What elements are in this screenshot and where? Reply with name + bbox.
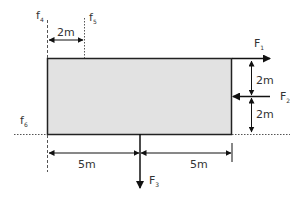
dimension-bottom-right-label: 5m — [190, 158, 208, 171]
line-f6-label: f6 — [20, 114, 28, 128]
dimension-right-lower-label: 2m — [256, 108, 274, 121]
line-f5-label: f5 — [89, 11, 97, 25]
line-f4-label: f4 — [36, 9, 44, 23]
force-diagram: 2m F1 2m 2m F2 5m 5m F3 f4 f5 f6 — [0, 0, 307, 204]
dimension-bottom-left-label: 5m — [78, 158, 96, 171]
dimension-top-label: 2m — [57, 26, 75, 39]
force-f2-label: F2 — [280, 90, 290, 104]
dimension-right-upper-label: 2m — [256, 74, 274, 87]
body-rectangle — [48, 59, 232, 135]
force-f3-label: F3 — [149, 174, 159, 188]
force-f1-label: F1 — [254, 37, 264, 51]
